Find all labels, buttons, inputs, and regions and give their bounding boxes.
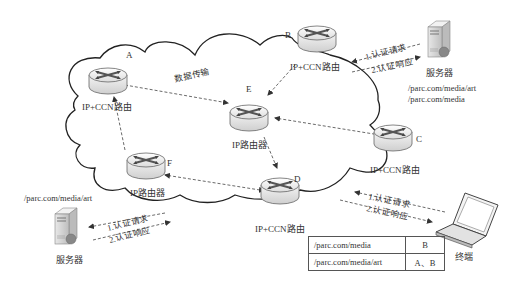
server-bottom-label: 服务器 xyxy=(56,254,83,265)
router-e-letter: E xyxy=(246,84,252,94)
router-a: A IP+CCN路由 xyxy=(82,50,133,112)
router-a-label: IP+CCN路由 xyxy=(82,101,132,112)
server-top: 服务器 /parc.com/media/art /parc.com/media … xyxy=(364,21,477,104)
router-f-letter: F xyxy=(167,158,172,168)
router-d: D IP+CCN路由 xyxy=(255,174,305,234)
link-c-e xyxy=(275,118,380,135)
router-a-letter: A xyxy=(126,50,133,60)
laptop-icon xyxy=(436,193,498,248)
table-cell-prefix: /parc.com/media xyxy=(309,237,406,254)
network-cloud xyxy=(66,34,387,203)
link-d-f xyxy=(165,175,260,190)
router-c: C IP+CCN路由 xyxy=(370,125,422,175)
table-cell-prefix: /parc.com/media/art xyxy=(309,254,406,271)
router-d-letter: D xyxy=(294,174,301,184)
server-top-label: 服务器 xyxy=(426,67,453,78)
routing-table: /parc.com/media B /parc.com/media/art A、… xyxy=(308,236,445,271)
router-b: B IP+CCN路由 xyxy=(285,26,340,72)
table-row: /parc.com/media B xyxy=(309,237,445,254)
table-cell-routers: B xyxy=(406,237,445,254)
router-c-label: IP+CCN路由 xyxy=(370,164,420,175)
router-b-letter: B xyxy=(285,30,291,40)
router-d-label: IP+CCN路由 xyxy=(255,223,305,234)
server-top-path-1: /parc.com/media/art xyxy=(408,83,477,93)
server-bottom-path-1: /parc.com/media/art xyxy=(24,193,93,203)
terminal-label: 终端 xyxy=(455,251,473,262)
router-f: F IP路由器 xyxy=(127,153,172,198)
router-b-label: IP+CCN路由 xyxy=(290,61,340,72)
link-a-e xyxy=(125,85,228,103)
table-cell-routers: A、B xyxy=(406,254,445,271)
server-top-path-2: /parc.com/media xyxy=(408,94,465,104)
router-e-label: IP路由器 xyxy=(232,139,267,150)
router-e: E IP路由器 xyxy=(230,84,268,150)
router-f-label: IP路由器 xyxy=(130,187,165,198)
server-bottom: /parc.com/media/art 服务器 1.认证请求 2.认证响应 xyxy=(24,193,152,265)
table-row: /parc.com/media/art A、B xyxy=(309,254,445,271)
link-label-data-transfer: 数据传输 xyxy=(173,67,210,84)
router-c-letter: C xyxy=(416,134,422,144)
